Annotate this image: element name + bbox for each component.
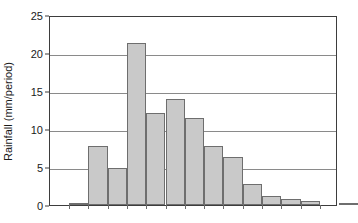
x-axis-tick-mark — [88, 205, 89, 209]
x-axis-tick-mark — [223, 205, 224, 209]
x-axis-tick-mark — [204, 205, 205, 209]
y-axis-tick-label: 25 — [31, 10, 43, 22]
x-axis-tick-mark — [243, 205, 244, 209]
bar — [185, 118, 204, 205]
bar — [166, 99, 185, 205]
gridline — [50, 55, 336, 56]
x-axis-tick-mark — [108, 205, 109, 209]
gridline — [50, 93, 336, 94]
y-axis-tick-label: 5 — [37, 162, 43, 174]
bar — [339, 203, 358, 205]
x-axis-tick-mark — [69, 205, 70, 209]
bar — [301, 201, 320, 205]
bar — [243, 184, 262, 205]
x-axis-tick-mark — [281, 205, 282, 209]
x-axis-tick-mark — [166, 205, 167, 209]
x-axis-tick-mark — [127, 205, 128, 209]
x-axis-tick-mark — [301, 205, 302, 209]
x-axis-tick-mark — [262, 205, 263, 209]
y-axis-tick-label: 15 — [31, 86, 43, 98]
x-axis-tick-mark — [146, 205, 147, 209]
bar — [262, 196, 281, 205]
y-axis-tick-label: 10 — [31, 124, 43, 136]
bar — [108, 168, 127, 205]
plot-area — [49, 16, 337, 206]
x-axis-tick-mark — [320, 205, 321, 209]
y-axis-tick-label: 0 — [37, 200, 43, 212]
y-axis-title: Rainfall (mm/period) — [0, 0, 16, 223]
bar — [281, 199, 300, 205]
bar — [146, 113, 165, 205]
bar — [204, 146, 223, 205]
bar — [127, 43, 146, 205]
bar — [88, 146, 107, 205]
bar — [223, 157, 242, 205]
bar — [69, 203, 88, 205]
y-axis-tick-label: 20 — [31, 48, 43, 60]
x-axis-tick-mark — [185, 205, 186, 209]
